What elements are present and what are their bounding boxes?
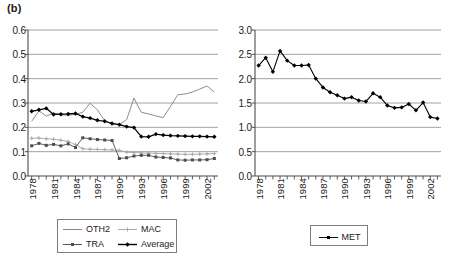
left-plot-area — [28, 30, 218, 176]
legend-label: MET — [342, 233, 361, 242]
legend-item-average[interactable]: Average — [117, 238, 172, 251]
legend-swatch — [117, 240, 138, 249]
x-tick-label: 2002 — [425, 178, 436, 200]
x-tick-label: 1993 — [136, 178, 147, 200]
y-tick-label: 0.5 — [238, 146, 252, 157]
y-tick-label: 2.5 — [238, 49, 252, 60]
x-tick-label: 1990 — [339, 178, 350, 200]
y-tick-label: 0.6 — [12, 25, 26, 36]
legend-label: Average — [141, 240, 174, 249]
figure-container: (b) 0.00.10.20.30.40.50.6 19781981198419… — [0, 0, 451, 262]
y-tick-label: 0.1 — [12, 146, 26, 157]
right-chart-svg — [255, 30, 441, 176]
x-tick-label: 1996 — [382, 178, 393, 200]
legend-item-mac[interactable]: MAC — [117, 223, 172, 236]
legend-key-icon — [62, 225, 83, 234]
left-chart-legend: OTH2MACTRAAverage — [57, 219, 177, 253]
right-x-axis-labels: 197819811984198719901993199619992002 — [255, 178, 441, 218]
y-tick-label: 3.0 — [238, 25, 252, 36]
y-tick-label: 0.2 — [12, 122, 26, 133]
legend-item-oth2[interactable]: OTH2 — [62, 223, 117, 236]
legend-key-icon — [117, 240, 138, 249]
x-tick-label: 1990 — [114, 178, 125, 200]
right-y-axis-labels: 0.00.51.01.52.02.53.0 — [226, 30, 252, 176]
x-tick-label: 1981 — [49, 178, 60, 200]
y-tick-label: 0.3 — [12, 98, 26, 109]
legend-swatch — [117, 225, 138, 234]
x-tick-label: 1999 — [180, 178, 191, 200]
legend-swatch — [62, 225, 83, 234]
left-y-axis-labels: 0.00.10.20.30.40.50.6 — [0, 30, 26, 176]
x-tick-label: 1978 — [27, 178, 38, 200]
x-tick-label: 2002 — [202, 178, 213, 200]
y-tick-label: 2.0 — [238, 73, 252, 84]
y-tick-label: 0.4 — [12, 73, 26, 84]
left-chart-panel: 0.00.10.20.30.40.50.6 197819811984198719… — [0, 0, 225, 262]
left-x-axis-labels: 197819811984198719901993199619992002 — [28, 178, 218, 218]
legend-label: OTH2 — [86, 225, 110, 234]
y-tick-label: 1.5 — [238, 98, 252, 109]
left-chart-svg — [28, 30, 218, 176]
right-plot-area — [255, 30, 441, 176]
x-tick-label: 1987 — [92, 178, 103, 200]
legend-label: MAC — [141, 225, 161, 234]
legend-item-tra[interactable]: TRA — [62, 238, 117, 251]
right-chart-legend: MET — [310, 225, 368, 246]
legend-swatch — [318, 233, 339, 242]
y-tick-label: 1.0 — [238, 122, 252, 133]
x-tick-label: 1987 — [318, 178, 329, 200]
legend-key-icon — [62, 240, 83, 249]
x-tick-label: 1996 — [158, 178, 169, 200]
y-tick-label: 0.0 — [238, 171, 252, 182]
legend-item-met[interactable]: MET — [315, 229, 363, 245]
x-tick-label: 1993 — [361, 178, 372, 200]
legend-swatch — [62, 240, 83, 249]
y-tick-label: 0.0 — [12, 171, 26, 182]
legend-label: TRA — [86, 240, 104, 249]
y-tick-label: 0.5 — [12, 49, 26, 60]
x-tick-label: 1978 — [254, 178, 265, 200]
x-tick-label: 1984 — [71, 178, 82, 200]
x-tick-label: 1984 — [297, 178, 308, 200]
x-tick-label: 1999 — [404, 178, 415, 200]
legend-key-icon — [117, 225, 138, 234]
x-tick-label: 1981 — [275, 178, 286, 200]
legend-key-icon — [318, 233, 339, 242]
